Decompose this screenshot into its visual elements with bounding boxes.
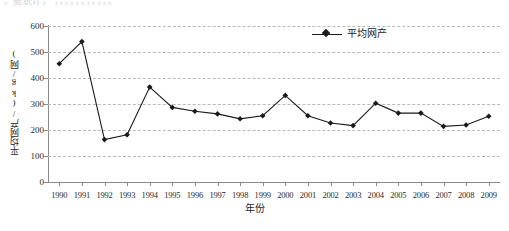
y-axis-tick-mark xyxy=(44,130,48,131)
x-axis-tick-mark xyxy=(376,182,377,186)
x-axis-tick-mark xyxy=(308,182,309,186)
x-axis-tick-mark xyxy=(398,182,399,186)
x-axis-tick-mark xyxy=(489,182,490,186)
x-axis-title: 年份 xyxy=(0,203,509,215)
x-axis-tick-mark xyxy=(331,182,332,186)
legend-label: 平均网产 xyxy=(347,28,387,40)
data-point-marker xyxy=(486,113,492,119)
x-axis-tick-mark xyxy=(263,182,264,186)
x-axis-tick-mark xyxy=(421,182,422,186)
data-point-marker xyxy=(215,111,221,117)
y-axis-tick-mark xyxy=(44,78,48,79)
x-axis-tick-mark xyxy=(240,182,241,186)
data-point-marker xyxy=(102,137,108,143)
y-axis-tick-mark xyxy=(44,52,48,53)
chart-legend: 平均网产 xyxy=(312,26,387,42)
x-axis-tick-mark xyxy=(466,182,467,186)
y-axis-tick-mark xyxy=(44,104,48,105)
data-point-marker xyxy=(463,122,469,128)
y-axis-tick-mark xyxy=(44,26,48,27)
x-axis-tick-mark xyxy=(285,182,286,186)
x-axis-tick-mark xyxy=(353,182,354,186)
data-point-marker xyxy=(192,108,198,114)
data-point-marker xyxy=(237,116,243,122)
x-axis-tick-mark xyxy=(218,182,219,186)
x-axis-tick-mark xyxy=(195,182,196,186)
data-point-marker xyxy=(124,132,130,138)
x-axis-tick-mark xyxy=(105,182,106,186)
data-point-marker xyxy=(441,124,447,130)
x-axis-tick-label: 2009 xyxy=(469,190,509,200)
series-polyline xyxy=(59,42,488,140)
y-axis-tick-mark xyxy=(44,156,48,157)
chart-figure: 。据统计， ，，，。，。，，，，。 平均网产/(kg/网) 0100200300… xyxy=(0,0,509,231)
x-axis-tick-mark xyxy=(127,182,128,186)
x-axis-tick-mark xyxy=(59,182,60,186)
data-point-marker xyxy=(396,110,402,116)
data-point-marker xyxy=(418,110,424,116)
y-axis-tick-mark xyxy=(44,182,48,183)
legend-marker-icon xyxy=(312,30,342,39)
data-point-marker xyxy=(328,120,334,126)
x-axis-tick-mark xyxy=(150,182,151,186)
x-axis-tick-mark xyxy=(82,182,83,186)
x-axis-tick-mark xyxy=(172,182,173,186)
x-axis-tick-mark xyxy=(444,182,445,186)
